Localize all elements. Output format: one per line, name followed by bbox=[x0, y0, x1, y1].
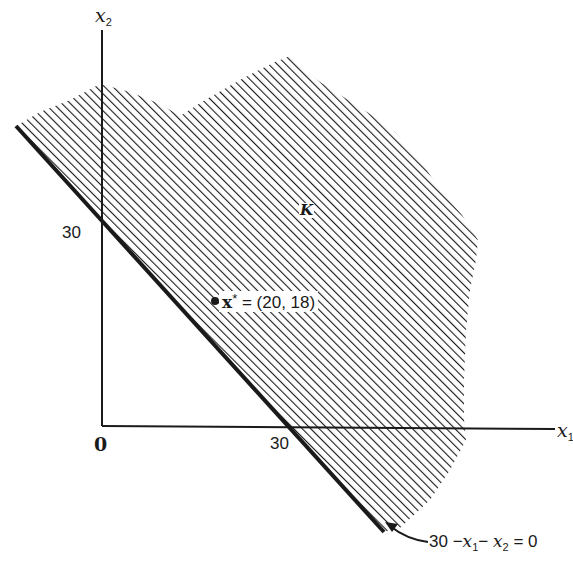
origin-label: 0 bbox=[94, 435, 107, 454]
feasible-region-diagram: x2 x1 0 30 30 K x* = (20, 18) 30 −x1− x2… bbox=[0, 0, 573, 566]
x1-axis-label: x1 bbox=[557, 421, 573, 443]
x2-tick-30: 30 bbox=[62, 224, 81, 241]
point-var: x bbox=[222, 292, 232, 312]
x1-label-var: x bbox=[557, 419, 568, 441]
diagram-canvas bbox=[0, 0, 573, 566]
eq-term1-var: x bbox=[463, 531, 473, 551]
x2-axis-label: x2 bbox=[95, 6, 112, 28]
optimal-point-label: x* = (20, 18) bbox=[219, 291, 318, 312]
x1-label-sub: 1 bbox=[568, 431, 573, 443]
eq-suffix: = 0 bbox=[509, 532, 538, 551]
region-k-label: K bbox=[299, 203, 314, 218]
x2-label-var: x bbox=[95, 4, 106, 26]
eq-term2-var: x bbox=[493, 531, 503, 551]
point-value: = (20, 18) bbox=[237, 293, 315, 312]
constraint-equation-label: 30 −x1− x2 = 0 bbox=[429, 533, 538, 553]
optimal-point-marker bbox=[211, 297, 219, 305]
eq-prefix: 30 − bbox=[429, 532, 463, 551]
x1-tick-30: 30 bbox=[270, 435, 289, 452]
eq-minus: − bbox=[478, 532, 493, 551]
x2-label-sub: 2 bbox=[106, 16, 112, 28]
